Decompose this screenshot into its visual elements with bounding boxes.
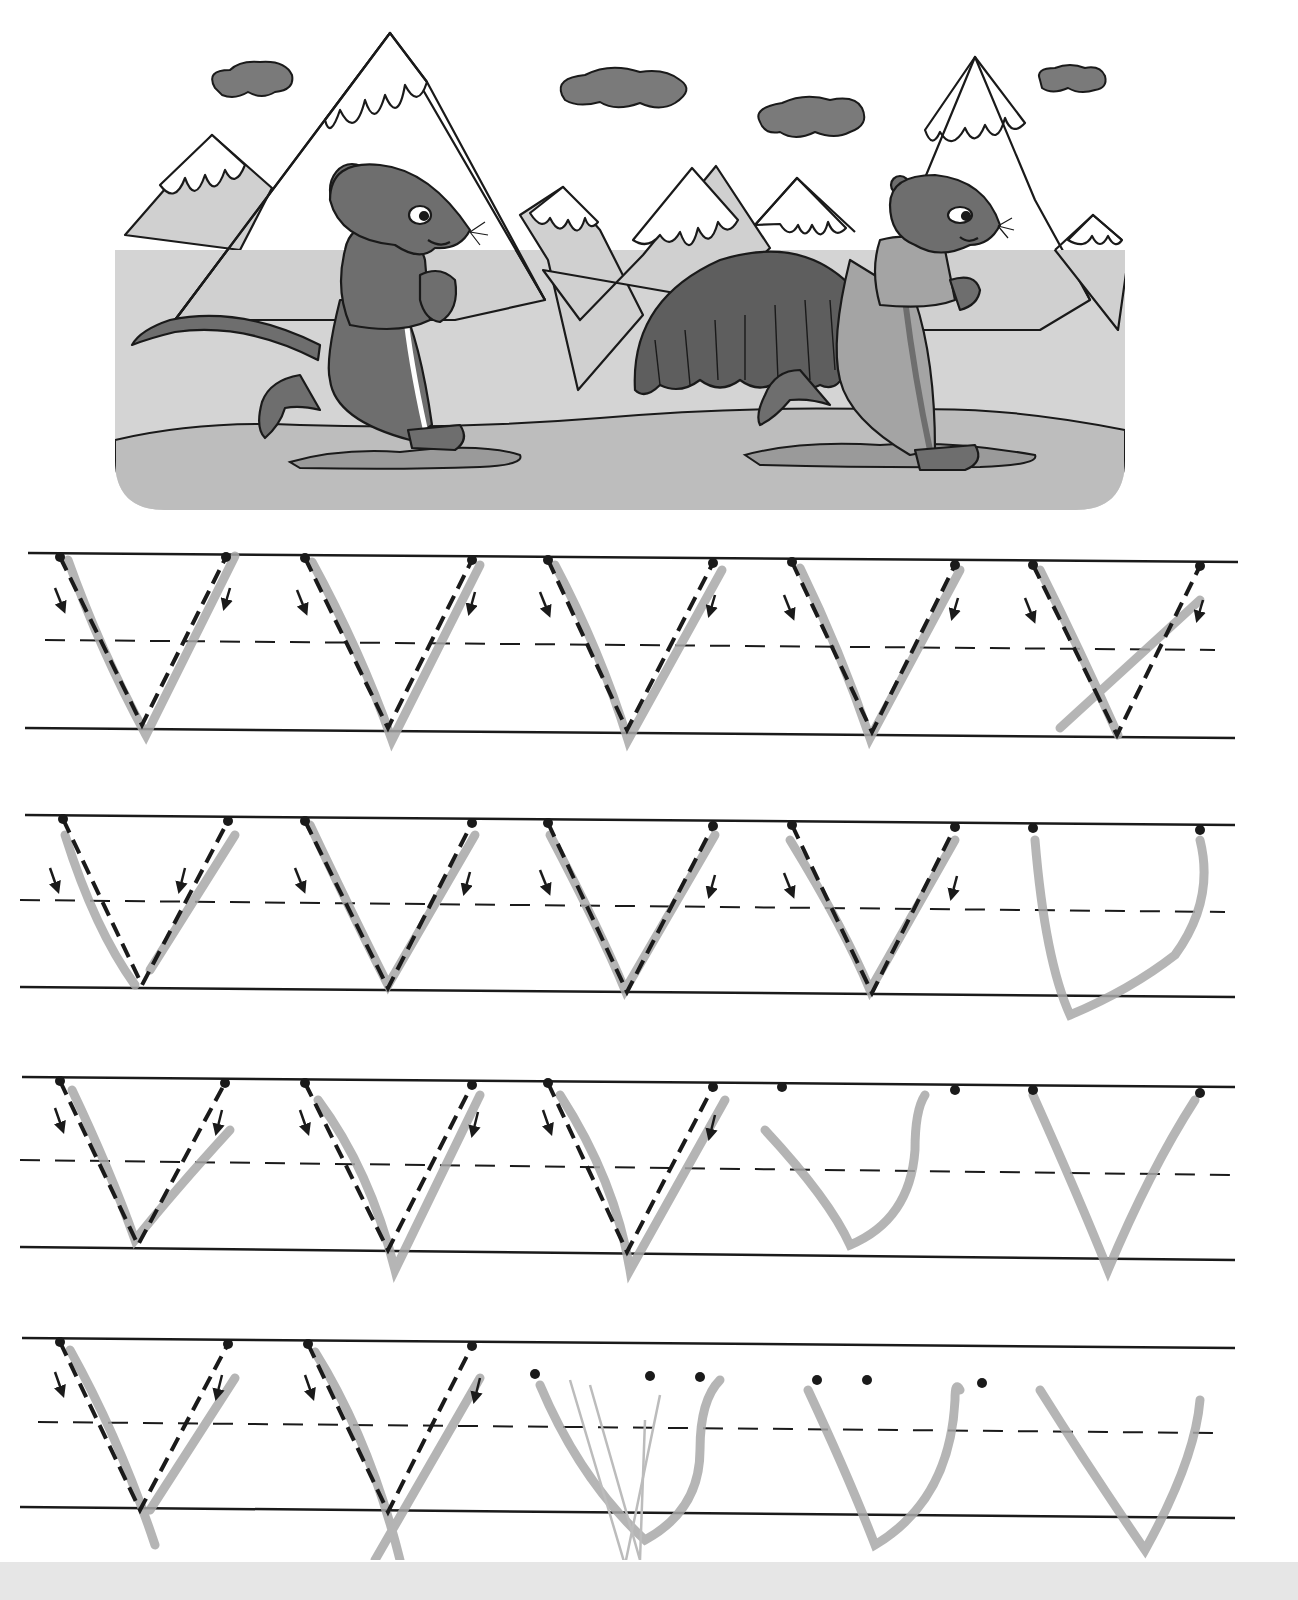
dashed-letter-guides	[60, 557, 1200, 735]
direction-arrow-icons	[55, 1372, 480, 1398]
traced-letter-v	[65, 825, 1204, 1015]
traced-letter-v	[70, 1350, 1200, 1560]
dashed-letter-guides	[60, 1342, 472, 1512]
practice-row-1[interactable]	[25, 552, 1238, 740]
practice-row-3[interactable]	[20, 1076, 1235, 1270]
start-dots	[58, 814, 1205, 835]
illustration-scene	[0, 0, 1298, 530]
handwriting-practice-area[interactable]	[0, 530, 1298, 1560]
start-dots	[55, 1076, 1205, 1098]
dashed-letter-guides	[63, 819, 955, 993]
practice-row-2[interactable]	[20, 814, 1235, 1015]
direction-arrow-icons	[55, 1108, 715, 1135]
page-bottom-edge	[0, 1562, 1298, 1600]
direction-arrow-icons	[55, 588, 1203, 618]
practice-row-4[interactable]	[20, 1337, 1235, 1560]
